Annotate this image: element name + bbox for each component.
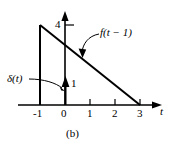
delta-leader-line xyxy=(29,79,62,88)
signal-leader xyxy=(79,34,99,58)
delta-leader-arrowhead xyxy=(60,87,66,92)
figure-container: -1 0 1 2 3 4 t δ(t) 1 f(t − 1) (b) xyxy=(0,0,175,147)
y-tick-label-4: 4 xyxy=(55,19,61,30)
x-tick-label-1: 1 xyxy=(87,108,93,119)
signal-annotation-label: f(t − 1) xyxy=(100,27,132,38)
impulse-arrowhead xyxy=(62,76,70,87)
impulse-annotation-label: δ(t) xyxy=(7,73,23,84)
y-axis-arrowhead xyxy=(61,11,68,21)
x-tick-label-3: 3 xyxy=(137,108,143,119)
delta-leader xyxy=(29,79,65,91)
x-tick-label-neg1: -1 xyxy=(33,108,42,119)
x-axis-variable-label: t xyxy=(160,106,163,117)
x-axis-ticks xyxy=(40,99,140,105)
figure-caption: (b) xyxy=(66,128,79,139)
plot-canvas xyxy=(0,0,175,147)
x-tick-label-2: 2 xyxy=(112,108,118,119)
x-tick-label-0: 0 xyxy=(61,108,67,119)
impulse-amplitude-label: 1 xyxy=(71,78,77,89)
